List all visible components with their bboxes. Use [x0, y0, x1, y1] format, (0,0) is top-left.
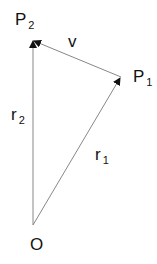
label-r1: r1 [95, 146, 109, 163]
vector-diagram [0, 0, 157, 264]
vector-v [34, 41, 121, 77]
label-origin: O [30, 236, 43, 253]
label-v: v [68, 33, 77, 50]
label-p2: P2 [15, 11, 34, 28]
label-p1: P1 [133, 68, 152, 85]
label-r2: r2 [11, 106, 25, 123]
